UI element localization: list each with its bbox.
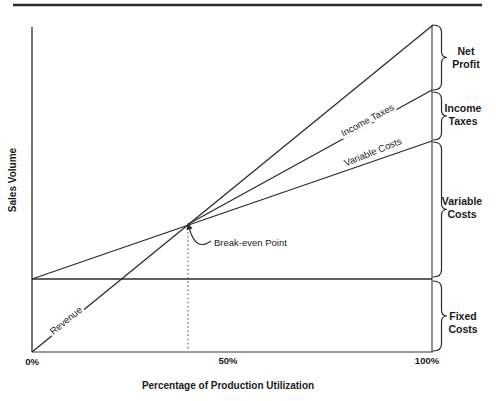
break-even-chart-figure: Sales Volume Percentage of Production Ut… [0, 0, 496, 401]
income-taxes-brace [433, 92, 447, 140]
variable-costs-label-line2: Costs [447, 208, 476, 220]
net-profit-label-line1: Net [458, 45, 475, 57]
chart-canvas: Sales Volume Percentage of Production Ut… [0, 0, 496, 401]
x-tick-50pct: 50% [218, 355, 238, 366]
income-taxes-line [188, 90, 433, 225]
income-taxes-label-line1: Income [445, 102, 482, 114]
net-profit-brace [433, 25, 447, 90]
revenue-line-label: Revenue [48, 304, 84, 336]
fixed-costs-brace [433, 281, 447, 351]
x-tick-100pct: 100% [415, 355, 440, 366]
x-tick-0pct: 0% [25, 356, 39, 367]
variable-costs-label-line1: Variable [442, 195, 482, 207]
revenue-line [32, 25, 433, 352]
income-taxes-line-label: Income Taxes [339, 101, 396, 138]
variable-costs-line [32, 141, 432, 279]
fixed-costs-label-line2: Costs [448, 323, 477, 335]
break-even-point-label: Break-even Point [214, 237, 287, 248]
fixed-costs-label-line1: Fixed [449, 310, 476, 322]
y-axis-title: Sales Volume [7, 147, 18, 212]
net-profit-label-line2: Profit [452, 58, 480, 70]
variable-costs-line-label: Variable Costs [342, 135, 403, 168]
x-axis-title: Percentage of Production Utilization [142, 380, 314, 391]
break-even-arrow [190, 229, 212, 245]
income-taxes-label-line2: Taxes [449, 115, 478, 127]
variable-costs-brace [433, 142, 447, 277]
